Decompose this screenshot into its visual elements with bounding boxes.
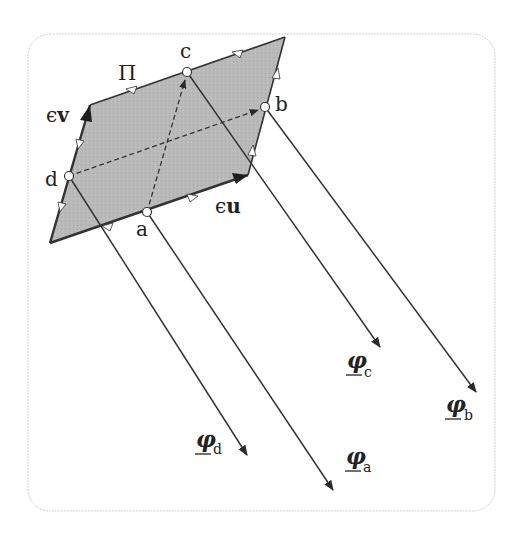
point-c [183,68,192,77]
point-b [261,103,270,112]
svg-text:c: c [364,364,372,380]
label-c: c [180,39,191,63]
point-d [65,172,74,181]
label-b: b [275,92,288,116]
phi-label-d: φ d [195,426,222,457]
parallelogram-flow-diagram: Π c b d a ϵv ϵu φ d φ a φ c φ b [0,0,517,536]
svg-text:b: b [464,407,473,423]
label-epsilon-u: ϵu [215,194,241,218]
ray-b [265,107,476,392]
label-d: d [45,167,58,191]
phi-label-a: φ a [345,443,371,475]
label-pi: Π [118,61,136,85]
ev-arrowhead-icon [80,105,92,122]
label-a: a [136,217,148,241]
label-epsilon-v: ϵv [46,103,70,127]
point-a [143,208,152,217]
phi-label-c: φ c [346,347,372,380]
boundary-arrow-icon [187,194,198,202]
phi-label-b: φ b [445,391,473,423]
svg-text:d: d [213,441,222,457]
ray-a [147,212,333,490]
svg-text:a: a [363,459,371,475]
svg-text:φ: φ [446,391,466,417]
